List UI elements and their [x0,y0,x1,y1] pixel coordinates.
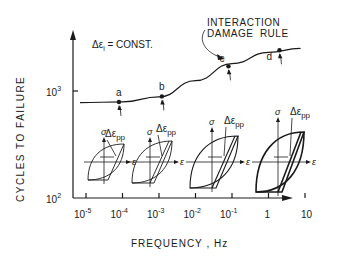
point-arrow-head-icon [278,53,283,58]
strain-axis-arrow-icon [306,160,311,164]
label-leader-line [107,140,116,156]
stress-axis-arrow-icon [276,117,280,122]
plastic-strain-label: Δεpp [290,106,311,120]
strain-symbol: ε [180,157,185,167]
rule-label-line1: INTERACTION [207,17,280,28]
stress-symbol: σ [209,117,215,127]
hysteresis-loop: σεΔεpp [84,127,137,184]
plastic-strain-label: Δεpp [224,115,245,129]
strain-axis-arrow-icon [240,160,245,164]
y-tick-label-1000: 103 [46,85,61,98]
point-label-a: a [116,87,122,98]
data-points: abcd [116,48,283,116]
hysteresis-loop: σεΔεpp [186,115,251,192]
plastic-strain-label: Δεpp [105,128,126,142]
label-leader-line [158,135,162,156]
x-tick-label: 10 [301,209,313,220]
x-ticks: 10-510-410-310-210-1110 [74,193,313,220]
plastic-strain-label: Δεpp [156,123,177,137]
x-tick-label: 10-1 [220,207,237,220]
point-arrow-head-icon [227,69,232,74]
y-axis-arrow-icon [70,30,76,40]
hysteresis-loop: σεΔεpp [128,123,185,187]
stress-axis-arrow-icon [148,137,152,142]
const-annotation: Δεi = CONST. [92,39,153,52]
diagram-canvas: 103 102 10-510-410-310-210-1110 FREQUENC… [0,0,340,266]
point-label-d: d [266,51,272,62]
point-arrow-head-icon [117,105,122,110]
strain-symbol: ε [246,157,251,167]
label-leader-line [290,118,292,156]
y-axis-label: CYCLES TO FAILURE [15,76,26,202]
stress-symbol: σ [275,107,281,117]
point-label-c: c [219,53,224,64]
y-tick-label-100: 102 [46,192,61,205]
x-tick-label: 10-4 [111,207,128,220]
strain-axis-arrow-icon [174,160,179,164]
data-point-d [277,48,281,52]
hysteresis-loops: σεΔεppσεΔεppσεΔεppσεΔεpp [84,106,317,196]
stress-symbol: σ [147,127,153,137]
point-label-b: b [159,81,165,92]
x-axis-label: FREQUENCY , Hz [131,238,228,249]
rule-label-line2: DAMAGE RULE [207,28,289,39]
x-tick-label: 10-3 [147,207,164,220]
x-tick-label: 10-2 [184,207,201,220]
x-axis-arrow-icon [282,195,293,201]
stress-axis-arrow-icon [210,127,214,132]
x-tick-label: 1 [265,209,271,220]
point-arrow-head-icon [160,99,165,104]
label-leader-line [224,127,226,156]
hysteresis-loop: σεΔεpp [252,106,317,196]
x-tick-label: 10-5 [74,207,91,220]
data-point-b [160,94,164,98]
data-point-a [117,100,121,104]
strain-symbol: ε [312,157,317,167]
data-point-c [226,64,230,68]
